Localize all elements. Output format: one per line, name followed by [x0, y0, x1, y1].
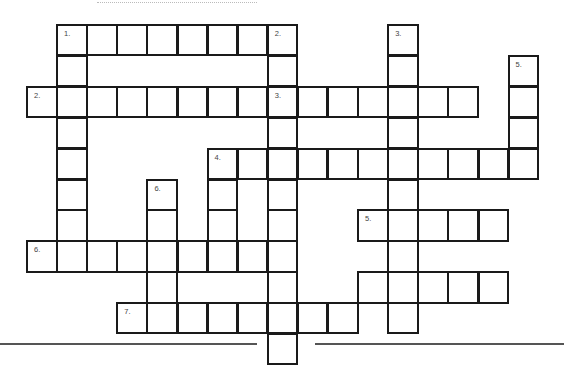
crossword-cell[interactable]	[56, 148, 88, 180]
crossword-cell[interactable]	[387, 55, 419, 87]
crossword-cell[interactable]	[478, 271, 510, 303]
divider-line	[0, 343, 257, 345]
crossword-cell[interactable]	[387, 302, 419, 334]
clue-number: 5.	[516, 61, 522, 69]
crossword-cell[interactable]: 5.	[508, 55, 540, 87]
crossword-cell[interactable]	[237, 24, 269, 56]
crossword-cell[interactable]	[417, 209, 449, 241]
clue-number: 1.	[64, 30, 70, 38]
crossword-cell[interactable]	[478, 209, 510, 241]
crossword-cell[interactable]	[387, 117, 419, 149]
crossword-cell[interactable]	[116, 24, 148, 56]
crossword-cell[interactable]	[207, 24, 239, 56]
crossword-cell[interactable]	[417, 271, 449, 303]
crossword-cell[interactable]: 7.	[116, 302, 148, 334]
crossword-cell[interactable]	[56, 179, 88, 211]
clue-number: 7.	[124, 308, 130, 316]
crossword-cell[interactable]	[417, 86, 449, 118]
crossword-cell[interactable]	[297, 302, 329, 334]
crossword-cell[interactable]	[207, 240, 239, 272]
crossword-cell[interactable]: 3.	[267, 86, 299, 118]
crossword-cell[interactable]	[237, 86, 269, 118]
crossword-cell[interactable]	[146, 240, 178, 272]
crossword-cell[interactable]	[267, 333, 299, 365]
crossword-cell[interactable]	[86, 86, 118, 118]
crossword-cell[interactable]	[387, 271, 419, 303]
crossword-cell[interactable]	[327, 148, 359, 180]
crossword-cell[interactable]	[387, 86, 419, 118]
crossword-cell[interactable]	[146, 24, 178, 56]
crossword-cell[interactable]	[177, 86, 209, 118]
crossword-cell[interactable]	[56, 86, 88, 118]
crossword-cell[interactable]	[86, 24, 118, 56]
crossword-cell[interactable]	[146, 271, 178, 303]
crossword-cell[interactable]	[387, 209, 419, 241]
crossword-cell[interactable]	[387, 179, 419, 211]
crossword-cell[interactable]	[207, 86, 239, 118]
crossword-cell[interactable]	[267, 209, 299, 241]
crossword-cell[interactable]	[267, 148, 299, 180]
crossword-cell[interactable]	[508, 86, 540, 118]
crossword-cell[interactable]	[297, 86, 329, 118]
crossword-cell[interactable]	[447, 271, 479, 303]
crossword-cell[interactable]	[207, 302, 239, 334]
crossword-cell[interactable]	[146, 209, 178, 241]
crossword-cell[interactable]	[508, 117, 540, 149]
crossword-cell[interactable]	[116, 86, 148, 118]
crossword-cell[interactable]	[387, 148, 419, 180]
crossword-cell[interactable]	[267, 179, 299, 211]
crossword-cell[interactable]	[237, 302, 269, 334]
crossword-cell[interactable]	[146, 86, 178, 118]
crossword-cell[interactable]	[327, 302, 359, 334]
crossword-cell[interactable]	[56, 117, 88, 149]
crossword-cell[interactable]	[56, 209, 88, 241]
crossword-cell[interactable]: 4.	[207, 148, 239, 180]
crossword-cell[interactable]	[267, 271, 299, 303]
crossword-cell[interactable]: 1.	[56, 24, 88, 56]
crossword-cell[interactable]	[177, 240, 209, 272]
crossword-cell[interactable]: 3.	[387, 24, 419, 56]
crossword-cell[interactable]	[177, 24, 209, 56]
crossword-cell[interactable]: 6.	[26, 240, 58, 272]
crossword-cell[interactable]	[357, 148, 389, 180]
clue-number: 3.	[395, 30, 401, 38]
clue-number: 2.	[275, 30, 281, 38]
crossword-cell[interactable]	[267, 240, 299, 272]
crossword-cell[interactable]	[86, 240, 118, 272]
crossword-cell[interactable]	[267, 117, 299, 149]
crossword-cell[interactable]	[387, 240, 419, 272]
crossword-cell[interactable]	[447, 86, 479, 118]
crossword-cell[interactable]	[207, 179, 239, 211]
crossword-cell[interactable]	[267, 302, 299, 334]
crossword-cell[interactable]: 6.	[146, 179, 178, 211]
crossword-cell[interactable]	[447, 148, 479, 180]
crossword-cell[interactable]	[237, 148, 269, 180]
crossword-cell[interactable]	[207, 209, 239, 241]
crossword-cell[interactable]	[478, 148, 510, 180]
crossword-cell[interactable]	[267, 55, 299, 87]
clue-number: 6.	[34, 246, 40, 254]
crossword-cell[interactable]	[327, 86, 359, 118]
clue-number: 3.	[275, 92, 281, 100]
crossword-cell[interactable]: 5.	[357, 209, 389, 241]
crossword-cell[interactable]	[116, 240, 148, 272]
clue-number: 6.	[154, 185, 160, 193]
header-dotted-line	[97, 2, 257, 3]
crossword-cell[interactable]: 2.	[267, 24, 299, 56]
clue-number: 2.	[34, 92, 40, 100]
crossword-cell[interactable]	[417, 148, 449, 180]
crossword-cell[interactable]: 2.	[26, 86, 58, 118]
crossword-cell[interactable]	[297, 148, 329, 180]
crossword-cell[interactable]	[177, 302, 209, 334]
crossword-cell[interactable]	[447, 209, 479, 241]
crossword-cell[interactable]	[508, 148, 540, 180]
crossword-cell[interactable]	[56, 240, 88, 272]
crossword-cell[interactable]	[146, 302, 178, 334]
crossword-cell[interactable]	[357, 271, 389, 303]
crossword-cell[interactable]	[357, 86, 389, 118]
clue-number: 5.	[365, 215, 371, 223]
clue-number: 4.	[215, 154, 221, 162]
crossword-cell[interactable]	[56, 55, 88, 87]
crossword-cell[interactable]	[237, 240, 269, 272]
